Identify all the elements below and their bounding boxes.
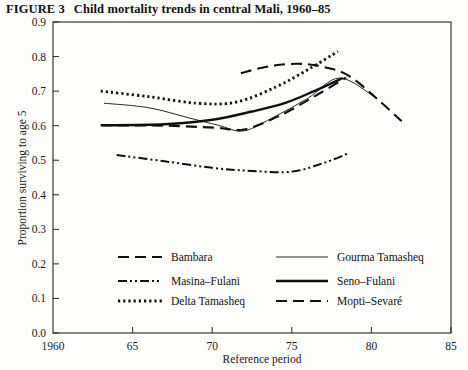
x-tick-label: 70	[206, 340, 218, 352]
y-tick-label: 0.1	[32, 292, 47, 304]
y-tick-label: 0.4	[32, 189, 47, 201]
y-tick-label: 0.6	[32, 120, 47, 132]
legend-label: Gourma Tamasheq	[337, 251, 424, 264]
y-tick-label: 0.5	[32, 154, 47, 166]
legend-label: Mopti–Sevaré	[337, 295, 402, 308]
legend-label: Seno–Fulani	[337, 275, 395, 287]
legend-label: Delta Tamasheq	[171, 295, 245, 308]
y-axis-title: Proportion surviving to age 5	[16, 110, 29, 245]
x-axis-title: Reference period	[223, 353, 302, 366]
x-tick-label: 75	[286, 340, 298, 352]
y-tick-label: 0.8	[32, 51, 47, 63]
legend-label: Masina–Fulani	[171, 275, 240, 287]
x-tick-label: 85	[445, 340, 457, 352]
series-lines	[101, 51, 402, 172]
series-line	[101, 78, 346, 130]
figure-page: FIGURE 3Child mortality trends in centra…	[0, 0, 468, 370]
x-tick-label: 1960	[42, 340, 65, 352]
y-tick-label: 0.7	[32, 85, 47, 97]
chart-legend: BambaraMasina–FulaniDelta TamasheqGourma…	[118, 251, 424, 308]
x-tick-label: 80	[366, 340, 378, 352]
y-tick-label: 0.2	[32, 258, 47, 270]
y-tick-label: 0.0	[32, 327, 47, 339]
x-tick-label: 65	[127, 340, 139, 352]
child-mortality-line-chart: 0.00.10.20.30.40.50.60.70.80.9 196065707…	[0, 0, 468, 370]
legend-label: Bambara	[171, 251, 213, 263]
series-line	[117, 153, 349, 172]
y-tick-label: 0.9	[32, 16, 47, 28]
y-axis-ticks: 0.00.10.20.30.40.50.60.70.80.9	[32, 16, 59, 339]
x-axis-ticks: 19606570758085	[42, 327, 458, 352]
y-tick-label: 0.3	[32, 223, 47, 235]
